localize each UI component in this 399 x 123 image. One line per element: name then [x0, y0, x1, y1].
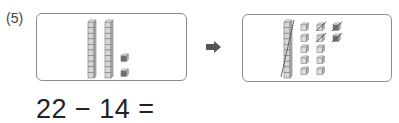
ones-cube	[317, 67, 324, 74]
ones-cube	[317, 45, 324, 52]
ones-cube	[121, 69, 128, 76]
ones-cube	[317, 56, 324, 63]
equation: 22 − 14 =	[36, 96, 155, 123]
tens-rod	[105, 20, 113, 78]
ones-cube	[301, 56, 308, 63]
tens-rod	[88, 20, 96, 78]
tens-rod-crossed	[284, 20, 292, 78]
ones-cube	[301, 23, 308, 30]
ones-cube	[301, 34, 308, 41]
ones-cube	[121, 54, 128, 61]
ones-cube	[301, 67, 308, 74]
ones-cube	[301, 45, 308, 52]
